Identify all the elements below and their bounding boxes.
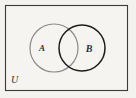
universal-set-label: U [11,74,19,85]
venn-diagram-canvas: A B U [0,0,136,98]
venn-diagram-figure: A B U [0,0,136,98]
set-b-label: B [85,43,93,54]
universal-set-rectangle [6,6,128,91]
set-a-label: A [38,43,45,53]
